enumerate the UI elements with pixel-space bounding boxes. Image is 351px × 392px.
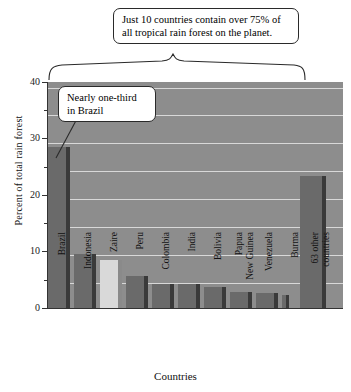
- y-tick-0: [42, 308, 48, 309]
- bar-chart-figure: 40 30 20 10 0 Percent of total rain fore…: [0, 0, 351, 392]
- gridline: [48, 227, 343, 228]
- callout-brazil: Nearly one-third in Brazil: [58, 86, 156, 122]
- x-tick-label-indonesia: Indonesia: [83, 232, 94, 312]
- x-tick-label-venezuela: Venezuela: [264, 232, 275, 312]
- callout-top-countries: Just 10 countries contain over 75% of al…: [113, 8, 299, 44]
- y-tick-label-10: 10: [0, 246, 40, 256]
- bar-side: [274, 293, 278, 308]
- callout-top-line2: all tropical rain forest on the planet.: [122, 26, 290, 39]
- y-tick-10: [42, 251, 48, 252]
- bar-side: [286, 295, 289, 308]
- x-tick-label-burma: Burma: [290, 232, 301, 312]
- x-tick-label-brazil: Brazil: [57, 232, 68, 312]
- bracket-annotation: [40, 52, 310, 82]
- gridline: [48, 199, 343, 200]
- callout-brazil-line1: Nearly one-third: [67, 91, 147, 104]
- y-tick-5: [44, 280, 48, 281]
- y-tick-label-0: 0: [0, 303, 40, 313]
- x-tick-label-papua-new-guinea: Papua New Guinea: [234, 232, 255, 312]
- y-tick-20: [42, 195, 48, 196]
- gridline: [48, 171, 343, 172]
- y-axis-title: Percent of total rain forest: [13, 101, 24, 241]
- x-tick-label-peru: Peru: [135, 232, 146, 312]
- y-tick-label-40: 40: [0, 77, 40, 87]
- x-axis-title: Countries: [0, 370, 351, 382]
- bar-burma: [282, 295, 289, 308]
- x-tick-label-colombia: Colombia: [161, 232, 172, 312]
- x-tick-label-63-other-countries: 63 other countries: [310, 232, 331, 312]
- x-tick-label-zaire: Zaire: [109, 232, 120, 312]
- callout-brazil-line2: in Brazil: [67, 104, 147, 117]
- y-tick-40: [42, 82, 48, 83]
- x-tick-label-india: India: [187, 232, 198, 312]
- x-tick-label-bolivia: Bolivia: [213, 232, 224, 312]
- callout-top-line1: Just 10 countries contain over 75% of: [122, 13, 290, 26]
- y-tick-15: [44, 223, 48, 224]
